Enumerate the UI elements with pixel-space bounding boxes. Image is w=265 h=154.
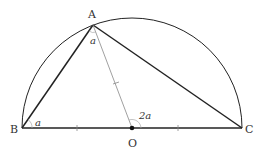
diagram-canvas: A B C O a a 2a	[0, 0, 265, 154]
semicircle-arc	[22, 18, 242, 128]
point-o-dot	[130, 126, 135, 131]
label-c: C	[245, 123, 253, 136]
segment-ao	[93, 25, 132, 128]
angle-label-a: a	[90, 35, 96, 46]
label-o: O	[128, 137, 137, 150]
segment-ab	[22, 25, 93, 128]
angle-label-o: 2a	[138, 110, 151, 121]
segment-ac	[93, 25, 242, 128]
angle-arc-b	[28, 120, 32, 129]
angle-label-b: a	[35, 117, 41, 128]
tick-ao	[113, 82, 119, 84]
label-a: A	[87, 8, 97, 21]
label-b: B	[10, 123, 18, 136]
